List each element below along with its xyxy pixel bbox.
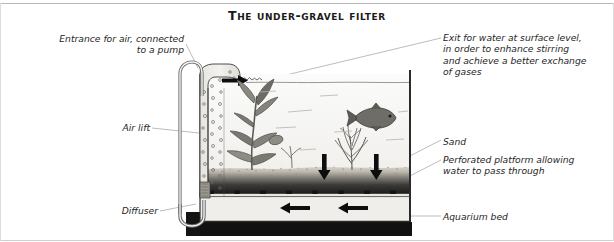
label-perforated-platform: Perforated platform allowing water to pa… — [443, 154, 611, 177]
air-tube — [180, 62, 202, 214]
label-sand: Sand — [443, 136, 563, 147]
figure-root: The under-gravel filter — [0, 0, 614, 242]
label-entrance-for-air: Entrance for air, connected to a pump — [24, 33, 184, 56]
label-diffuser: Diffuser — [96, 205, 158, 216]
label-exit-for-water: Exit for water at surface level, in orde… — [443, 32, 611, 78]
label-aquarium-bed: Aquarium bed — [443, 211, 593, 222]
label-air-lift: Air lift — [86, 122, 150, 133]
